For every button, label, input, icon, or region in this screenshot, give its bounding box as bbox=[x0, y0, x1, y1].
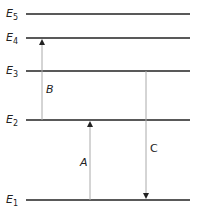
transition-a-label: A bbox=[79, 156, 88, 169]
level-e2-label: E2 bbox=[6, 113, 18, 128]
level-e1-label: E1 bbox=[6, 193, 18, 208]
transition-b-label: B bbox=[46, 83, 54, 96]
level-lines bbox=[26, 14, 190, 200]
level-e5-label: E5 bbox=[6, 7, 18, 22]
transition-c-label: C bbox=[150, 142, 158, 155]
transition-arrows bbox=[42, 42, 146, 200]
level-labels: E5 E4 E3 E2 E1 bbox=[6, 7, 18, 208]
level-e4-label: E4 bbox=[6, 31, 18, 46]
energy-level-diagram: E5 E4 E3 E2 E1 B A C bbox=[0, 0, 202, 213]
transition-labels: B A C bbox=[46, 83, 158, 169]
level-e3-label: E3 bbox=[6, 64, 18, 79]
